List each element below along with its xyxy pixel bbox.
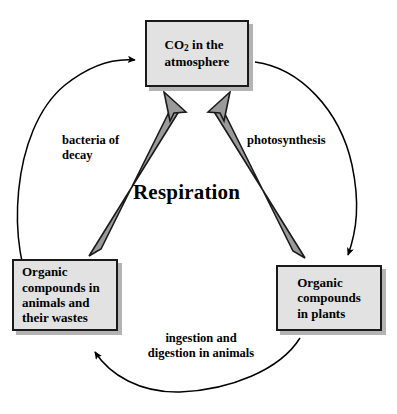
edge-respiration-plants-arrow: [208, 92, 305, 258]
co2-formula-base: CO: [165, 37, 185, 52]
edge-photosynthesis-arc: [255, 62, 357, 255]
co2-label-line1: in the: [192, 37, 223, 52]
edge-respiration-animals-arrow: [89, 92, 186, 256]
node-organic-compounds-animals-label: Organic compounds in animals and their w…: [14, 264, 108, 325]
edge-label-photosynthesis: photosynthesis: [247, 133, 326, 148]
carbon-cycle-diagram: CO2 in theatmosphere Organic compounds i…: [0, 0, 397, 414]
node-organic-compounds-plants: Organic compounds in plants: [276, 265, 382, 331]
node-co2-atmosphere: CO2 in theatmosphere: [145, 20, 249, 87]
co2-formula-subscript: 2: [184, 43, 189, 53]
node-organic-compounds-animals: Organic compounds in animals and their w…: [12, 259, 118, 331]
edge-label-ingestion-digestion: ingestion and digestion in animals: [116, 331, 286, 361]
edge-label-bacteria-of-decay: bacteria of decay: [62, 133, 119, 163]
edge-label-respiration: Respiration: [133, 180, 240, 205]
co2-label-line2: atmosphere: [165, 54, 230, 69]
node-co2-atmosphere-label: CO2 in theatmosphere: [157, 37, 238, 69]
node-organic-compounds-plants-label: Organic compounds in plants: [289, 275, 369, 321]
